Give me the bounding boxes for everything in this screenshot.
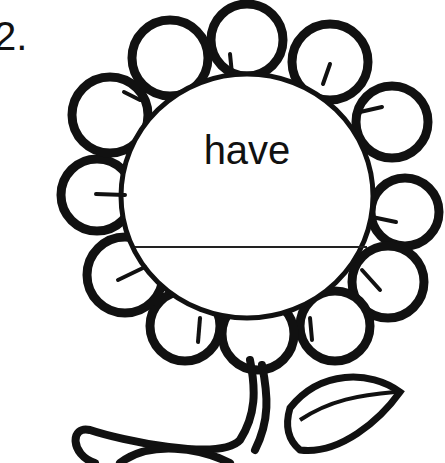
leaf-icon [288, 377, 400, 450]
answer-line[interactable] [135, 246, 367, 248]
sight-word: have [0, 130, 445, 170]
flower-icon [0, 0, 445, 463]
center-disc [121, 74, 373, 318]
petal-icon [211, 4, 283, 76]
petal-icon [371, 178, 439, 246]
stem-icon [76, 360, 267, 463]
